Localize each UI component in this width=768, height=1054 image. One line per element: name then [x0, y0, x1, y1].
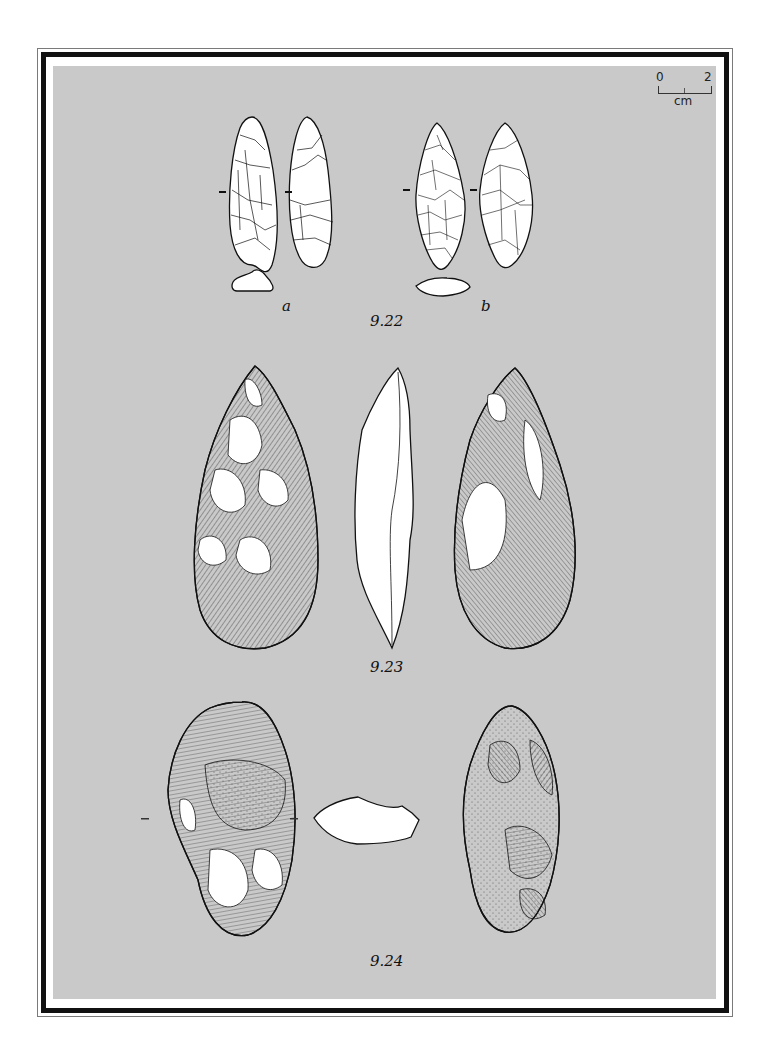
figure-sublabel-a: a: [282, 297, 291, 315]
figure-9-23: [194, 366, 575, 649]
figure-9-24: [168, 702, 559, 936]
figure-label-9-23: 9.23: [370, 658, 403, 676]
figure-label-9-22: 9.22: [370, 312, 403, 330]
figure-9-22b: [416, 123, 533, 296]
artifact-illustrations: a b 9.22: [0, 0, 768, 1054]
section-marker: [403, 189, 410, 191]
section-marker: [470, 189, 477, 191]
figure-9-22a: [229, 117, 333, 291]
figure-label-9-24: 9.24: [370, 952, 403, 970]
figure-sublabel-b: b: [481, 297, 491, 315]
section-marker: [141, 818, 149, 820]
section-marker: [219, 191, 226, 193]
section-marker: [290, 818, 298, 820]
section-marker: [285, 191, 292, 193]
